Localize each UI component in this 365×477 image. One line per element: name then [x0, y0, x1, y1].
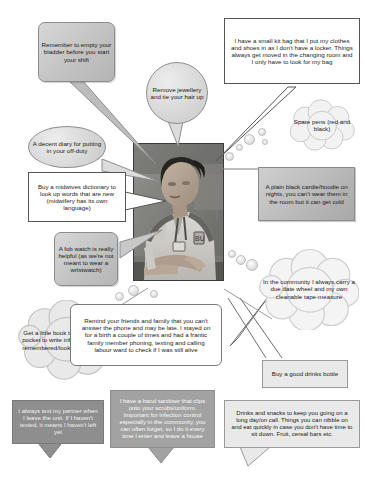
tail-hand-sanitiser — [146, 447, 176, 464]
bubble-text: Buy a good drinks bottle — [270, 370, 340, 377]
thought-dot — [228, 250, 236, 258]
thought-dot — [150, 290, 158, 298]
thought-dot — [236, 255, 246, 265]
bubble-text-partner[interactable]: I always text my partner when I leave th… — [12, 400, 104, 444]
bubble-remove-jewellery[interactable]: Remove jewellery and tie your hair up — [146, 62, 208, 124]
bubble-remind-friends-family[interactable]: Remind your friends and family that you … — [70, 304, 222, 366]
bubble-hand-sanitiser[interactable]: I have a hand sanitiser that clips onto … — [110, 390, 215, 448]
tail-drinks-snacks — [238, 447, 272, 467]
bubble-text: I have a small kit bag that I put my clo… — [229, 37, 355, 66]
bubble-text: Buy a midwives dictionary to look up wor… — [32, 183, 122, 212]
thought-dot — [246, 259, 258, 271]
poster-canvas: BU Remember to empty your bladder before… — [0, 0, 365, 477]
bubble-text: Remember to empty your bladder before yo… — [39, 41, 114, 62]
bubble-black-cardie[interactable]: A plain black cardie/hoodie on nights, y… — [258, 167, 355, 221]
bubble-drinks-bottle[interactable]: Buy a good drinks bottle — [262, 360, 348, 388]
bubble-due-date-wheel[interactable]: In the community I always carry a due da… — [259, 248, 359, 330]
bubble-spare-pens[interactable]: Spare pens (red and black) — [286, 98, 358, 152]
bubble-drinks-snacks[interactable]: Drinks and snacks to keep you going on a… — [224, 400, 360, 448]
bubble-fob-watch[interactable]: A fob watch is really helpful (as we're … — [54, 232, 118, 286]
bubble-text: In the community I always carry a due da… — [259, 278, 359, 299]
tail-black-cardie — [215, 165, 263, 225]
bubble-text: A fob watch is really helpful (as we're … — [55, 245, 117, 274]
tail-text-partner — [36, 443, 64, 459]
bubble-text: Remind your friends and family that you … — [76, 317, 216, 353]
bubble-text: A plain black cardie/hoodie on nights, y… — [263, 183, 350, 204]
bubble-kit-bag[interactable]: I have a small kit bag that I put my clo… — [224, 18, 360, 84]
tail-fob-watch — [118, 228, 164, 268]
bubble-text: Spare pens (red and black) — [286, 118, 358, 132]
bubble-empty-bladder[interactable]: Remember to empty your bladder before yo… — [38, 22, 115, 82]
bubble-midwives-dictionary[interactable]: Buy a midwives dictionary to look up wor… — [28, 172, 126, 222]
bubble-text: Drinks and snacks to keep you going on a… — [229, 410, 355, 438]
bubble-text: A decent diary for putting in your off-d… — [29, 140, 105, 154]
bubble-text: I always text my partner when I leave th… — [16, 408, 100, 436]
bubble-text: I have a hand sanitiser that clips onto … — [114, 398, 211, 439]
tail-midwives-dictionary — [124, 190, 168, 216]
bubble-decent-diary[interactable]: A decent diary for putting in your off-d… — [28, 126, 106, 168]
bubble-text: Remove jewellery and tie your hair up — [147, 86, 207, 100]
